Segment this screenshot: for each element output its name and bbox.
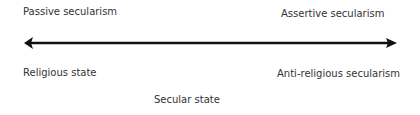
anti-religious-secularism-label: Anti-religious secularism bbox=[277, 68, 400, 80]
religious-state-label: Religious state bbox=[23, 67, 97, 79]
secular-state-label: Secular state bbox=[154, 94, 220, 106]
